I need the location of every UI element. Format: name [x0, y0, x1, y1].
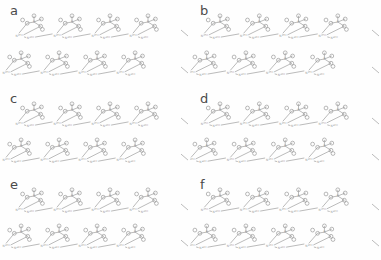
svg-text:H: H — [8, 244, 10, 247]
crystal-structure-diagram-a: PNHNHPNHNHPNHNHPNHNHPNHNHPNHNHPNHNHPNHNH — [0, 0, 190, 88]
svg-text:N: N — [15, 208, 17, 212]
svg-text:H: H — [285, 208, 287, 211]
svg-text:N: N — [252, 36, 254, 40]
svg-text:H: H — [244, 73, 246, 76]
svg-text:H: H — [8, 158, 10, 161]
svg-text:N: N — [40, 158, 42, 162]
panel-d: dPNHNHPNHNHPNHNHPNHNHPNHNHPNHNHPNHNHPNHN… — [190, 88, 381, 174]
svg-text:N: N — [116, 244, 118, 248]
svg-text:P: P — [245, 144, 247, 148]
svg-text:H: H — [97, 122, 99, 125]
svg-text:N: N — [201, 122, 203, 126]
svg-text:P: P — [147, 194, 149, 198]
svg-text:N: N — [14, 160, 16, 164]
svg-text:H: H — [95, 73, 97, 76]
svg-text:H: H — [19, 73, 21, 76]
svg-text:N: N — [78, 244, 80, 248]
svg-text:N: N — [199, 246, 201, 250]
svg-text:H: H — [205, 246, 207, 249]
svg-text:H: H — [324, 122, 326, 125]
panel-label-d: d — [200, 92, 208, 105]
svg-text:P: P — [297, 194, 299, 198]
svg-text:P: P — [96, 144, 98, 148]
svg-text:P: P — [71, 108, 73, 112]
svg-text:N: N — [319, 34, 321, 38]
svg-text:H: H — [311, 71, 313, 74]
panel-label-c: c — [10, 92, 17, 105]
svg-text:H: H — [322, 246, 324, 249]
svg-text:N: N — [91, 122, 93, 126]
svg-text:N: N — [330, 124, 332, 128]
svg-text:H: H — [21, 122, 23, 125]
svg-text:N: N — [330, 210, 332, 214]
svg-text:N: N — [78, 71, 80, 75]
svg-text:N: N — [199, 160, 201, 164]
figure-panel-grid: aPNHNHPNHNHPNHNHPNHNHPNHNHPNHNHPNHNHPNHN… — [0, 0, 381, 260]
svg-text:H: H — [232, 158, 234, 161]
svg-text:H: H — [46, 244, 48, 247]
svg-text:N: N — [27, 36, 29, 40]
svg-text:H: H — [206, 122, 208, 125]
svg-text:N: N — [240, 208, 242, 212]
svg-text:N: N — [266, 244, 268, 248]
svg-text:H: H — [206, 208, 208, 211]
svg-text:N: N — [91, 34, 93, 38]
svg-text:N: N — [252, 210, 254, 214]
crystal-structure-diagram-f: PNHNHPNHNHPNHNHPNHNHPNHNHPNHNHPNHNHPNHNH — [190, 174, 381, 260]
svg-text:N: N — [278, 160, 280, 164]
svg-text:H: H — [46, 71, 48, 74]
svg-text:P: P — [58, 57, 60, 61]
svg-text:H: H — [21, 34, 23, 37]
svg-text:H: H — [70, 124, 72, 127]
svg-text:P: P — [297, 20, 299, 24]
svg-text:H: H — [57, 246, 59, 249]
panel-label-a: a — [10, 4, 18, 17]
svg-text:H: H — [122, 244, 124, 247]
svg-text:N: N — [317, 160, 319, 164]
svg-text:P: P — [258, 20, 260, 24]
svg-text:N: N — [65, 210, 67, 214]
svg-text:H: H — [218, 210, 220, 213]
svg-text:N: N — [238, 160, 240, 164]
svg-text:H: H — [135, 122, 137, 125]
svg-text:P: P — [206, 144, 208, 148]
svg-text:P: P — [337, 194, 339, 198]
svg-text:N: N — [14, 73, 16, 77]
svg-text:H: H — [108, 124, 110, 127]
svg-text:H: H — [285, 122, 287, 125]
svg-text:P: P — [134, 230, 136, 234]
svg-text:H: H — [283, 246, 285, 249]
svg-text:H: H — [146, 36, 148, 39]
svg-text:H: H — [322, 160, 324, 163]
svg-text:P: P — [109, 108, 111, 112]
svg-text:H: H — [84, 244, 86, 247]
svg-text:H: H — [271, 244, 273, 247]
svg-text:N: N — [15, 122, 17, 126]
svg-text:P: P — [297, 108, 299, 112]
panel-e: ePNHNHPNHNHPNHNHPNHNHPNHNHPNHNHPNHNHPNHN… — [0, 174, 190, 260]
svg-text:P: P — [96, 57, 98, 61]
svg-text:H: H — [257, 36, 259, 39]
svg-text:H: H — [296, 124, 298, 127]
svg-text:N: N — [238, 246, 240, 250]
svg-text:P: P — [71, 194, 73, 198]
svg-text:H: H — [244, 160, 246, 163]
svg-text:H: H — [311, 158, 313, 161]
svg-text:H: H — [57, 160, 59, 163]
svg-text:N: N — [53, 34, 55, 38]
svg-text:P: P — [109, 20, 111, 24]
svg-text:N: N — [52, 73, 54, 77]
svg-text:H: H — [205, 160, 207, 163]
svg-text:H: H — [257, 210, 259, 213]
svg-text:H: H — [324, 208, 326, 211]
svg-text:N: N — [40, 71, 42, 75]
panel-label-b: b — [200, 4, 208, 17]
svg-text:P: P — [20, 144, 22, 148]
svg-text:H: H — [283, 160, 285, 163]
svg-text:P: P — [71, 20, 73, 24]
panel-c: cPNHNHPNHNHPNHNHPNHNHPNHNHPNHNHPNHNHPNHN… — [0, 88, 190, 174]
svg-text:N: N — [305, 158, 307, 162]
svg-text:H: H — [206, 34, 208, 37]
svg-text:H: H — [59, 122, 61, 125]
svg-text:H: H — [336, 36, 338, 39]
